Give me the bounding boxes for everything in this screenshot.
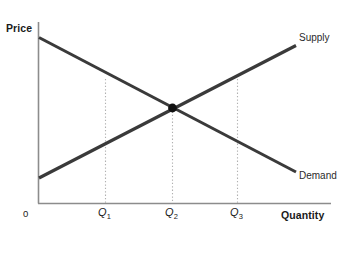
y-axis-label: Price: [6, 23, 32, 34]
x-axis-label: Quantity: [281, 210, 324, 221]
x-tick-label-q1: Q1: [98, 207, 111, 218]
supply-demand-chart: Price Quantity Supply Demand 0 Q1 Q2 Q3: [0, 0, 355, 269]
x-tick-label-q3-base: Q: [230, 206, 239, 218]
x-tick-label-q2: Q2: [165, 207, 178, 218]
demand-curve: [39, 38, 296, 173]
x-tick-label-q3-subscript: 3: [239, 212, 243, 221]
demand-curve-label: Demand: [299, 171, 337, 181]
x-tick-label-q1-base: Q: [98, 206, 107, 218]
origin-label: 0: [23, 209, 28, 219]
x-tick-label-q1-subscript: 1: [107, 212, 111, 221]
supply-curve: [39, 46, 296, 179]
x-tick-label-q2-subscript: 2: [174, 212, 178, 221]
x-tick-label-q3: Q3: [230, 207, 243, 218]
equilibrium-point: [168, 104, 177, 113]
supply-curve-label: Supply: [299, 33, 330, 43]
x-tick-label-q2-base: Q: [165, 206, 174, 218]
